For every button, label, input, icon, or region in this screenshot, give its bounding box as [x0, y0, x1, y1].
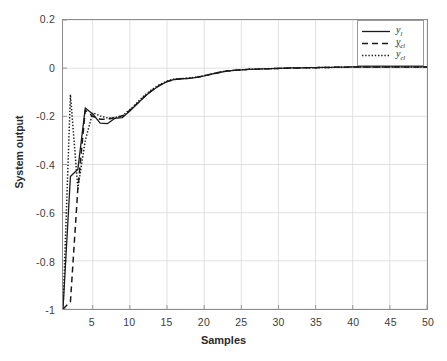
x-tick-50: 50 — [422, 316, 434, 328]
legend-line-sample-dashed — [361, 38, 391, 49]
x-tick-45: 45 — [385, 316, 397, 328]
y-tick--0.2: -0.2 — [0, 110, 55, 122]
chart-legend: ylyclycl — [357, 20, 424, 66]
series-y_l — [63, 67, 427, 309]
x-tick-15: 15 — [161, 316, 173, 328]
x-tick-25: 25 — [235, 316, 247, 328]
series-y_cl_hat — [63, 67, 427, 309]
y-tick--0.6: -0.6 — [0, 207, 55, 219]
y-tick--1: -1 — [0, 304, 55, 316]
legend-item-ycl[interactable]: ycl — [361, 37, 420, 49]
y-tick--0.4: -0.4 — [0, 159, 55, 171]
legend-item-yl[interactable]: yl — [361, 25, 420, 37]
figure-canvas: 0.20-0.2-0.4-0.6-0.8-1 51015202530354045… — [0, 0, 447, 361]
legend-item-yclhat[interactable]: ycl — [361, 49, 420, 61]
legend-line-sample-dotted — [361, 50, 391, 61]
x-axis-label: Samples — [0, 334, 447, 346]
y-axis-label: System output — [13, 92, 25, 212]
y-tick-0: 0 — [0, 62, 55, 74]
legend-label: ycl — [391, 49, 405, 62]
y-tick--0.8: -0.8 — [0, 256, 55, 268]
legend-line-sample-solid — [361, 26, 391, 37]
data-series-group — [63, 67, 427, 309]
x-tick-35: 35 — [310, 316, 322, 328]
y-tick-0.2: 0.2 — [0, 13, 55, 25]
x-tick-10: 10 — [123, 316, 135, 328]
x-tick-40: 40 — [347, 316, 359, 328]
series-y_cl — [63, 67, 427, 309]
x-tick-5: 5 — [89, 316, 95, 328]
x-tick-20: 20 — [198, 316, 210, 328]
x-tick-30: 30 — [273, 316, 285, 328]
